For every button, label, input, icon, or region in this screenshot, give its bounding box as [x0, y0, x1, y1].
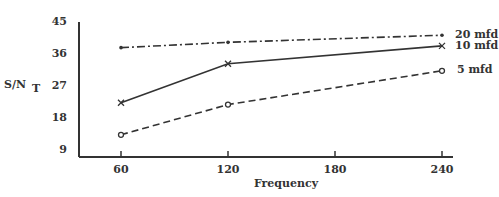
dot-marker — [440, 33, 444, 37]
dot-marker — [119, 46, 123, 50]
chart: 60120180240453627189FrequencyS/NT20 mfd1… — [0, 0, 499, 197]
circle-marker — [226, 102, 231, 107]
circle-marker — [440, 68, 445, 73]
circle-marker — [119, 132, 124, 137]
dot-marker — [226, 41, 230, 45]
line-chart: 60120180240453627189FrequencyS/NT20 mfd1… — [0, 0, 499, 197]
x-tick-label: 240 — [431, 163, 454, 176]
y-tick-label: 27 — [52, 79, 67, 92]
y-axis-label-subscript: T — [32, 82, 41, 95]
series-line-10-mfd — [121, 46, 442, 103]
y-axis-label: S/N — [4, 78, 26, 91]
y-tick-label: 36 — [52, 47, 68, 60]
series-label: 5 mfd — [457, 63, 493, 76]
y-tick-label: 18 — [52, 111, 68, 124]
series-label: 10 mfd — [455, 39, 499, 52]
series-line-20-mfd — [121, 35, 442, 47]
x-tick-label: 60 — [113, 163, 129, 176]
x-tick-label: 180 — [324, 163, 347, 176]
x-axis-label: Frequency — [254, 177, 319, 190]
y-tick-label: 45 — [52, 15, 67, 28]
y-tick-label: 9 — [59, 143, 67, 156]
x-tick-label: 120 — [217, 163, 240, 176]
series-line-5-mfd — [121, 71, 442, 135]
